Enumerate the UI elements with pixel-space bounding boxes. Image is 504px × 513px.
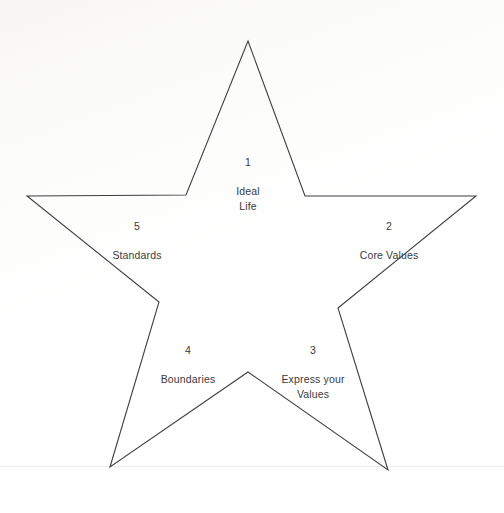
star-point-text-3: Express your Values — [253, 372, 373, 401]
star-point-text-5: Standards — [82, 248, 192, 263]
star-point-text-2: Core Values — [334, 248, 444, 263]
star-point-label-1: 1 Ideal Life — [198, 140, 298, 228]
star-point-number-1: 1 — [198, 155, 298, 170]
star-point-label-4: 4 Boundaries — [128, 328, 248, 401]
star-point-number-3: 3 — [253, 343, 373, 358]
star-point-number-4: 4 — [128, 343, 248, 358]
star-point-label-2: 2 Core Values — [334, 204, 444, 277]
star-point-text-1: Ideal Life — [198, 184, 298, 213]
star-point-number-2: 2 — [334, 219, 444, 234]
star-point-text-4: Boundaries — [128, 372, 248, 387]
diagram-canvas: 1 Ideal Life 2 Core Values 3 Express you… — [0, 0, 504, 513]
star-point-label-5: 5 Standards — [82, 204, 192, 277]
star-point-label-3: 3 Express your Values — [253, 328, 373, 416]
star-point-number-5: 5 — [82, 219, 192, 234]
